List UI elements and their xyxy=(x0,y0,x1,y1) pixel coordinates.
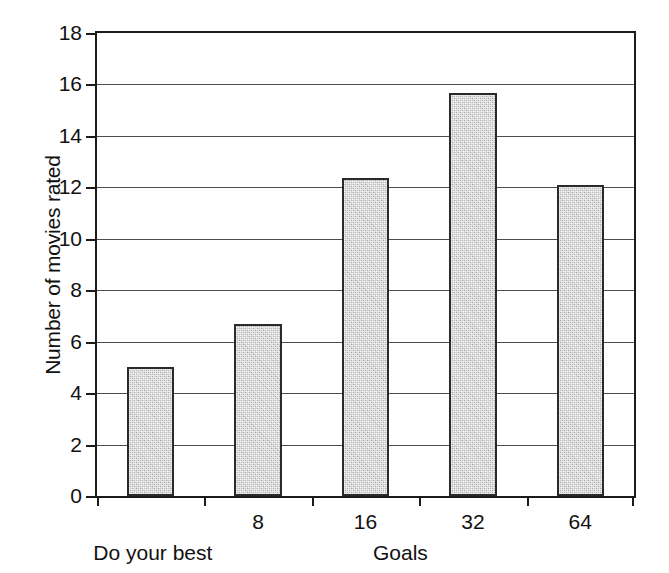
y-axis-tick-label: 4 xyxy=(42,381,82,405)
y-axis-tick xyxy=(86,342,95,344)
bar xyxy=(127,367,174,496)
y-axis-tick xyxy=(86,136,95,138)
y-axis-tick-label: 12 xyxy=(42,175,82,199)
x-axis-tick-label: 32 xyxy=(461,510,484,534)
y-axis-tick xyxy=(86,445,95,447)
y-axis-tick xyxy=(86,393,95,395)
x-axis-tick xyxy=(632,496,634,506)
x-axis-title: Goals xyxy=(373,541,428,565)
y-axis-tick-label: 6 xyxy=(42,330,82,354)
y-axis-tick-label: 8 xyxy=(42,278,82,302)
bar xyxy=(342,178,389,496)
y-axis-tick-label: 18 xyxy=(42,21,82,45)
x-axis-tick xyxy=(97,496,99,506)
gridline xyxy=(97,136,634,137)
x-axis-tick xyxy=(527,496,529,506)
y-axis-tick-label: 16 xyxy=(42,72,82,96)
x-axis-tick-label: 8 xyxy=(252,510,264,534)
y-axis-tick-label: 0 xyxy=(42,484,82,508)
x-axis-tick-label: 16 xyxy=(354,510,377,534)
y-axis-tick-label: 10 xyxy=(42,227,82,251)
y-axis-tick xyxy=(86,496,95,498)
x-axis-tick xyxy=(204,496,206,506)
y-axis-tick xyxy=(86,290,95,292)
bar xyxy=(557,185,604,496)
gridline xyxy=(97,84,634,85)
first-category-caption: Do your best xyxy=(93,541,212,565)
bar-chart-figure: Number of movies rated 024681012141618 8… xyxy=(0,0,669,573)
y-axis-tick-label: 2 xyxy=(42,433,82,457)
y-axis-tick xyxy=(86,33,95,35)
bar xyxy=(449,93,496,496)
x-axis-tick xyxy=(312,496,314,506)
plot-area: 024681012141618 8163264 Do your best Goa… xyxy=(95,31,636,498)
y-axis-tick xyxy=(86,187,95,189)
bar xyxy=(234,324,281,496)
y-axis-tick xyxy=(86,239,95,241)
x-axis-tick-label: 64 xyxy=(569,510,592,534)
x-axis-tick xyxy=(419,496,421,506)
y-axis-tick xyxy=(86,84,95,86)
y-axis-tick-label: 14 xyxy=(42,124,82,148)
